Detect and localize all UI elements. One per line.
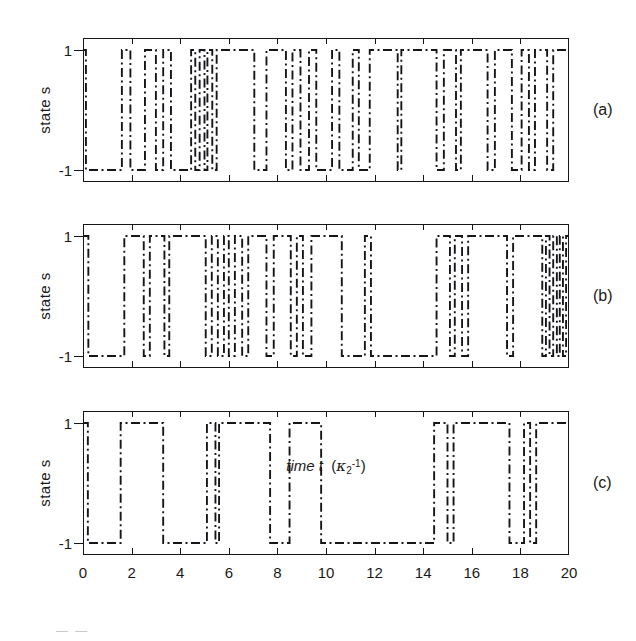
y-axis-label-c: state s (36, 459, 53, 507)
x-tick-mark-top (180, 38, 181, 44)
x-tick-mark (83, 361, 84, 368)
x-tick-mark (132, 548, 133, 555)
x-tick-mark-top (423, 411, 424, 417)
signal-trace-a (83, 38, 569, 182)
x-tick-mark (568, 175, 569, 182)
x-tick-label: 14 (415, 564, 432, 581)
x-tick-mark (83, 175, 84, 182)
x-tick-mark-top (568, 38, 569, 44)
x-tick-mark-top (326, 38, 327, 44)
x-tick-mark-top (229, 224, 230, 230)
x-tick-label: 16 (463, 564, 480, 581)
x-tick-mark (375, 548, 376, 555)
x-tick-mark (326, 361, 327, 368)
x-tick-mark (423, 361, 424, 368)
x-tick-mark-top (132, 411, 133, 417)
x-tick-mark-top (83, 411, 84, 417)
y-tick-mark-top-a (74, 50, 83, 51)
x-tick-mark (180, 361, 181, 368)
x-tick-mark-top (132, 224, 133, 230)
y-tick-label-bottom-b: -1 (59, 349, 72, 364)
y-tick-mark-top-c (74, 423, 83, 424)
x-tick-mark-top (277, 411, 278, 417)
panel-label-c: (c) (593, 474, 612, 492)
x-tick-mark (568, 548, 569, 555)
x-tick-label: 2 (127, 564, 135, 581)
kappa-symbol: κ (336, 457, 346, 475)
caption-fragment: — — (56, 624, 89, 638)
panel-label-b: (b) (593, 287, 613, 305)
x-axis-label-text: time t (286, 457, 323, 474)
y-axis-label-a: state s (36, 86, 53, 134)
x-tick-mark (520, 548, 521, 555)
x-tick-mark-top (568, 411, 569, 417)
telegraph-signal-path (83, 236, 569, 356)
x-tick-mark (568, 361, 569, 368)
y-tick-label-bottom-a: -1 (59, 163, 72, 178)
x-tick-mark (83, 548, 84, 555)
y-tick-label-top-a: 1 (64, 43, 72, 58)
x-tick-mark (132, 361, 133, 368)
x-tick-mark-top (229, 411, 230, 417)
x-tick-mark-top (375, 224, 376, 230)
x-tick-label: 12 (366, 564, 383, 581)
x-tick-mark-top (520, 224, 521, 230)
x-tick-mark (472, 361, 473, 368)
x-tick-mark (277, 548, 278, 555)
y-tick-label-top-b: 1 (64, 229, 72, 244)
y-axis-label-b: state s (36, 272, 53, 320)
x-tick-mark (229, 175, 230, 182)
kappa-superscript: -1 (352, 458, 361, 469)
x-tick-mark (375, 361, 376, 368)
x-tick-mark-top (423, 38, 424, 44)
y-tick-mark-bottom-a (74, 170, 83, 171)
x-tick-mark (326, 175, 327, 182)
x-tick-mark (132, 175, 133, 182)
x-tick-mark-top (375, 38, 376, 44)
figure-container: 1 -1 state s (a) 1 -1 state s (b) 1 -1 s… (0, 0, 636, 641)
telegraph-signal-path (83, 50, 569, 170)
x-tick-mark (472, 175, 473, 182)
telegraph-signal-path (83, 423, 569, 543)
x-tick-mark-top (180, 224, 181, 230)
x-tick-mark-top (132, 38, 133, 44)
x-tick-mark-top (423, 224, 424, 230)
x-tick-mark-top (277, 224, 278, 230)
y-tick-mark-bottom-c (74, 543, 83, 544)
x-tick-mark-top (326, 224, 327, 230)
x-tick-mark-top (375, 411, 376, 417)
x-tick-mark (277, 175, 278, 182)
x-axis-label: time t (κ2-1) (286, 457, 365, 476)
x-tick-mark-top (472, 224, 473, 230)
x-tick-mark (180, 175, 181, 182)
x-tick-mark-top (83, 224, 84, 230)
plot-panel-b: 1 -1 state s (b) (83, 224, 569, 368)
x-tick-mark (472, 548, 473, 555)
signal-trace-b (83, 224, 569, 368)
x-tick-mark (520, 175, 521, 182)
x-tick-label: 0 (79, 564, 87, 581)
plot-panel-a: 1 -1 state s (a) (83, 38, 569, 182)
x-tick-label: 8 (273, 564, 281, 581)
x-tick-mark (229, 361, 230, 368)
x-tick-label: 10 (318, 564, 335, 581)
x-tick-mark-top (180, 411, 181, 417)
x-tick-mark (180, 548, 181, 555)
y-tick-mark-top-b (74, 236, 83, 237)
x-tick-mark-top (472, 38, 473, 44)
x-tick-label: 20 (561, 564, 578, 581)
x-tick-mark (423, 175, 424, 182)
x-tick-mark-top (277, 38, 278, 44)
y-tick-mark-bottom-b (74, 356, 83, 357)
x-tick-mark (520, 361, 521, 368)
signal-trace-c (83, 411, 569, 555)
x-tick-mark (229, 548, 230, 555)
y-tick-label-bottom-c: -1 (59, 536, 72, 551)
x-axis-unit: (κ2-1) (327, 457, 365, 474)
plot-panel-c: 1 -1 state s (c) 02468101214161820 time … (83, 411, 569, 555)
panel-label-a: (a) (593, 101, 613, 119)
x-tick-mark-top (520, 411, 521, 417)
x-tick-mark (277, 361, 278, 368)
y-tick-label-top-c: 1 (64, 416, 72, 431)
x-tick-mark-top (568, 224, 569, 230)
